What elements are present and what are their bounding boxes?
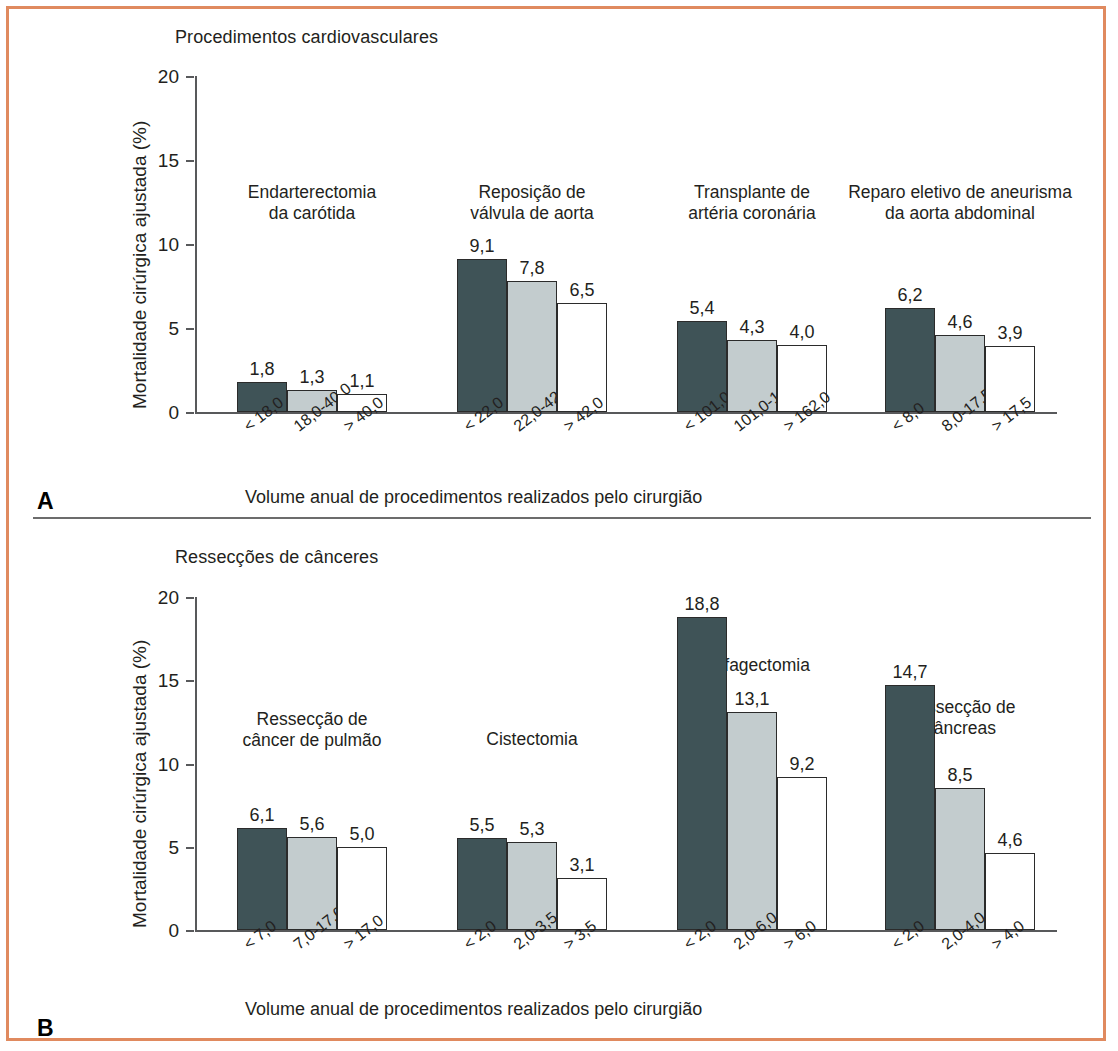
bar-value-label: 6,5 [542, 281, 622, 299]
bar[interactable] [677, 617, 727, 930]
panel-b-x-axis-title: Volume anual de procedimentos realizados… [245, 999, 702, 1020]
bar-value-label: 3,9 [970, 324, 1050, 342]
bar-group-label: Reparo eletivo de aneurisma da aorta abd… [830, 182, 1090, 223]
y-tick-20 [186, 597, 194, 599]
y-tick-0 [186, 412, 194, 414]
y-tick-label-20: 20 [135, 588, 179, 607]
bar[interactable] [237, 828, 287, 930]
bar-group-label: Esofagectomia [622, 655, 882, 676]
panel-a-title: Procedimentos cardiovasculares [175, 27, 438, 48]
panel-b-y-axis [195, 597, 197, 930]
panel-a-x-axis-title: Volume anual de procedimentos realizados… [245, 487, 702, 508]
bar[interactable] [557, 303, 607, 412]
bar-value-label: 14,7 [870, 663, 950, 681]
bar-group: Endarterectomia da carótida1,8< 18,01,31… [237, 76, 387, 412]
bar-group: Ressecção de pâncreas14,7< 2,08,52,0-4,0… [885, 597, 1035, 930]
bar-value-label: 3,1 [542, 856, 622, 874]
panel-a: Procedimentos cardiovasculares 05101520E… [9, 9, 1109, 517]
y-tick-15 [186, 680, 194, 682]
bar-value-label: 4,0 [762, 323, 842, 341]
bar-value-label: 18,8 [662, 595, 742, 613]
bar[interactable] [777, 777, 827, 930]
bar[interactable] [985, 853, 1035, 930]
y-tick-10 [186, 244, 194, 246]
bar-value-label: 7,8 [492, 259, 572, 277]
bar[interactable] [885, 685, 935, 930]
y-tick-label-20: 20 [135, 67, 179, 86]
bar-value-label: 5,0 [322, 825, 402, 843]
panel-b-plot-area: 05101520Ressecção de câncer de pulmão6,1… [195, 597, 1057, 930]
panel-b-title: Ressecções de cânceres [175, 547, 378, 568]
y-tick-5 [186, 328, 194, 330]
bar[interactable] [457, 259, 507, 412]
bar-group-label: Ressecção de pâncreas [830, 697, 1090, 738]
y-tick-20 [186, 76, 194, 78]
bar-group: Ressecção de câncer de pulmão6,1< 7,05,6… [237, 597, 387, 930]
bar-value-label: 8,5 [920, 766, 1000, 784]
y-tick-15 [186, 160, 194, 162]
bar-value-label: 5,4 [662, 299, 742, 317]
bar-value-label: 4,6 [970, 831, 1050, 849]
bar-group-label: Cistectomia [402, 729, 662, 750]
bar-group: Reparo eletivo de aneurisma da aorta abd… [885, 76, 1035, 412]
panel-divider [33, 517, 1091, 519]
bar-group: Transplante de artéria coronária5,4< 101… [677, 76, 827, 412]
bar-group: Cistectomia5,5< 2,05,32,0-3,53,1> 3,5 [457, 597, 607, 930]
panel-a-letter: A [37, 488, 54, 515]
panel-b-letter: B [37, 1015, 54, 1042]
y-tick-5 [186, 847, 194, 849]
bar-value-label: 5,3 [492, 820, 572, 838]
bar-value-label: 1,1 [322, 372, 402, 390]
panel-b-y-axis-title: Mortalidade cirúrgica ajustada (%) [129, 640, 151, 928]
y-tick-10 [186, 764, 194, 766]
bar-value-label: 6,2 [870, 286, 950, 304]
bar[interactable] [727, 712, 777, 930]
bar-value-label: 9,2 [762, 755, 842, 773]
panel-a-y-axis-title: Mortalidade cirúrgica ajustada (%) [129, 121, 151, 409]
bar-group: Esofagectomia18,8< 2,013,12,0-6,09,2> 6,… [677, 597, 827, 930]
bar-group: Reposição de válvula de aorta9,1< 22,07,… [457, 76, 607, 412]
bar[interactable] [457, 838, 507, 930]
bar-value-label: 9,1 [442, 237, 522, 255]
panel-a-y-axis [195, 76, 197, 412]
y-tick-0 [186, 930, 194, 932]
panel-a-plot-area: 05101520Endarterectomia da carótida1,8< … [195, 76, 1057, 412]
figure-frame: Procedimentos cardiovasculares 05101520E… [6, 6, 1106, 1041]
panel-b: Ressecções de cânceres 05101520Ressecção… [9, 524, 1109, 1044]
bar-value-label: 13,1 [712, 690, 792, 708]
